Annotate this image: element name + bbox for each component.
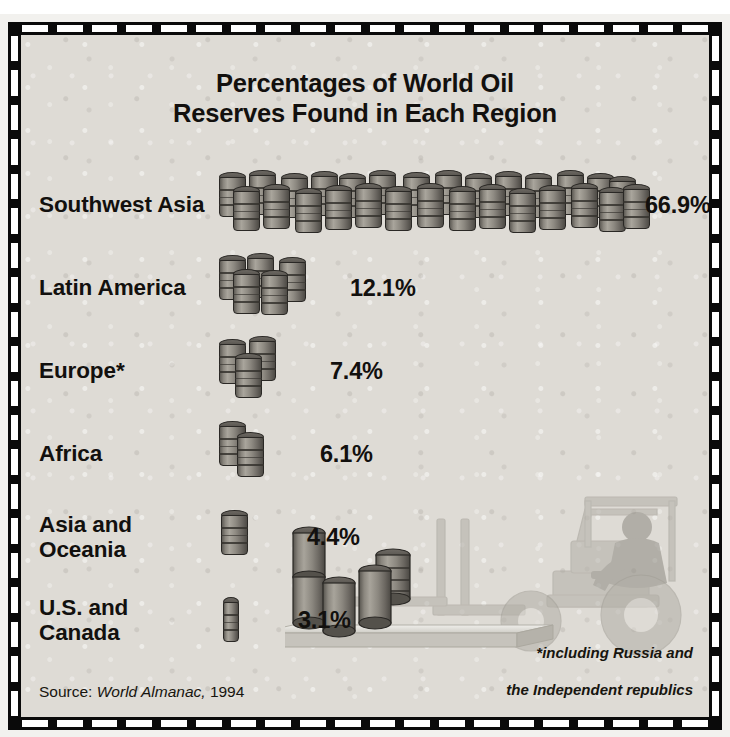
frame-dash (712, 415, 719, 440)
source-year: 1994 (210, 683, 244, 700)
frame-dash (11, 312, 18, 337)
frame-dash (11, 553, 18, 578)
frame-dash (231, 25, 257, 32)
frame-dash (196, 720, 222, 727)
table-row[interactable]: Africa 6.1% (21, 412, 709, 495)
barrel-icon (261, 270, 288, 315)
frame-dash (126, 720, 152, 727)
region-value-africa: 6.1% (320, 440, 373, 467)
pictograph-latin-america (217, 253, 337, 315)
barrel-icon (233, 186, 260, 231)
region-label-southwest-asia: Southwest Asia (39, 192, 204, 217)
frame-dash (11, 656, 18, 681)
frame-dash (712, 243, 719, 268)
scanned-page: Percentages of World Oil Reserves Found … (0, 0, 730, 737)
barrel-icon (571, 183, 598, 228)
scan-top-strip (0, 0, 730, 14)
frame-dash (682, 25, 708, 32)
frame-dash (712, 36, 719, 61)
frame-dash (22, 25, 48, 32)
barrel-icon (235, 353, 262, 398)
frame-dash (11, 105, 18, 130)
barrel-icon (355, 183, 382, 228)
region-value-europe: 7.4% (330, 357, 383, 384)
frame-dash (11, 70, 18, 95)
table-row[interactable]: Asia and Oceania 4.4% (21, 495, 709, 578)
table-row[interactable]: Europe* 7.4% (21, 329, 709, 412)
frame-dash (509, 25, 535, 32)
barrel-icon (449, 186, 476, 231)
frame-dash (126, 25, 152, 32)
chart-frame-border: Percentages of World Oil Reserves Found … (8, 22, 722, 730)
frame-dash (11, 36, 18, 61)
table-row[interactable]: Southwest Asia (21, 163, 709, 246)
frame-dash (712, 656, 719, 681)
frame-dash (712, 312, 719, 337)
frame-dash (11, 208, 18, 233)
frame-dash (712, 449, 719, 474)
frame-dash-row-bottom (8, 717, 722, 730)
barrel-icon (263, 184, 290, 229)
frame-dash (613, 720, 639, 727)
footnote-line-2: the Independent republics (506, 681, 693, 698)
frame-dash (11, 381, 18, 406)
frame-dash (57, 720, 83, 727)
table-row[interactable]: Latin America 12.1% (21, 246, 709, 329)
frame-dash (11, 449, 18, 474)
barrel-icon (599, 187, 626, 232)
frame-dash (11, 622, 18, 647)
frame-dash (712, 208, 719, 233)
frame-dash (404, 25, 430, 32)
frame-dash (370, 25, 396, 32)
frame-dash (648, 720, 674, 727)
frame-dash (11, 277, 18, 302)
barrel-icon (479, 184, 506, 229)
region-value-asia-oceania: 4.4% (307, 523, 360, 550)
frame-dash (92, 25, 118, 32)
frame-dash (161, 25, 187, 32)
frame-dash (712, 518, 719, 543)
frame-dash (712, 691, 719, 716)
frame-dash (11, 243, 18, 268)
region-label-europe: Europe* (39, 358, 125, 383)
frame-dash (712, 105, 719, 130)
source-work-title: World Almanac, (97, 683, 206, 700)
frame-dash (712, 70, 719, 95)
source-note: Source: World Almanac, 1994 (39, 683, 244, 701)
frame-dash (231, 720, 257, 727)
pictograph-us-canada (217, 585, 277, 647)
frame-dash (11, 415, 18, 440)
frame-dash (474, 720, 500, 727)
barrel-icon (233, 269, 260, 314)
pictograph-southwest-asia (217, 170, 637, 232)
region-value-latin-america: 12.1% (350, 274, 416, 301)
frame-dash (11, 346, 18, 371)
frame-dash (712, 277, 719, 302)
frame-dash (265, 25, 291, 32)
frame-dash (196, 25, 222, 32)
barrel-icon (385, 186, 412, 231)
frame-dash (682, 720, 708, 727)
region-rows: Southwest Asia (21, 163, 709, 661)
region-label-us-canada: U.S. and Canada (39, 594, 128, 644)
frame-dash (578, 720, 604, 727)
frame-dash (648, 25, 674, 32)
frame-dash (11, 139, 18, 164)
pictograph-asia-oceania (217, 502, 277, 564)
frame-dash (161, 720, 187, 727)
frame-dash (404, 720, 430, 727)
frame-dash (578, 25, 604, 32)
frame-dash (57, 25, 83, 32)
frame-dash (92, 720, 118, 727)
barrel-icon (539, 185, 566, 230)
frame-dash (712, 587, 719, 612)
frame-dash (509, 720, 535, 727)
frame-dash (370, 720, 396, 727)
frame-dash-col-left (8, 22, 21, 730)
chart-title-line-2: Reserves Found in Each Region (21, 99, 709, 129)
region-label-asia-oceania: Asia and Oceania (39, 511, 132, 561)
frame-dash (265, 720, 291, 727)
chart-title-line-1: Percentages of World Oil (21, 69, 709, 99)
frame-dash (335, 720, 361, 727)
frame-dash (613, 25, 639, 32)
